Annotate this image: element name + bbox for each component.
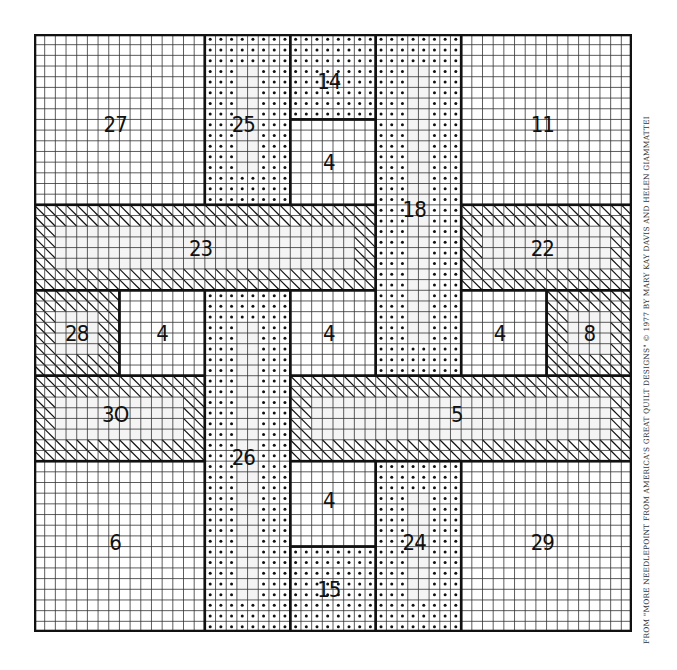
region-label-27: 27 <box>104 111 127 136</box>
region-label-4d: 4 <box>494 321 506 346</box>
region-label-4a: 4 <box>323 150 335 175</box>
region-label-6: 6 <box>109 530 121 555</box>
region-label-26: 26 <box>232 444 255 469</box>
region-label-28: 28 <box>65 321 88 346</box>
region-label-25: 25 <box>232 111 255 136</box>
region-label-22: 22 <box>531 235 554 260</box>
region-label-4e: 4 <box>323 487 335 512</box>
region-label-8: 8 <box>583 321 595 346</box>
region-label-4c: 4 <box>323 321 335 346</box>
region-label-11: 11 <box>531 111 554 136</box>
copyright-credit: FROM "MORE NEEDLEPOINT FROM AMERICA'S GR… <box>642 116 651 644</box>
region-label-23: 23 <box>189 235 212 260</box>
region-label-24: 24 <box>403 530 426 555</box>
region-label-18: 18 <box>403 197 426 222</box>
region-label-4b: 4 <box>156 321 168 346</box>
region-label-5: 5 <box>451 402 463 427</box>
region-label-29: 29 <box>531 530 554 555</box>
region-label-30: 3O <box>102 402 128 427</box>
region-label-15: 15 <box>317 577 340 602</box>
region-label-14: 14 <box>317 68 340 93</box>
